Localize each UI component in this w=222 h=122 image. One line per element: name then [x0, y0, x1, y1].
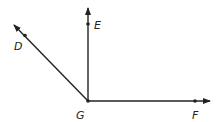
- label-g: G: [76, 109, 85, 122]
- point-d: [23, 34, 27, 38]
- point-f: [193, 99, 197, 103]
- point-e: [86, 22, 90, 26]
- label-f: F: [192, 109, 199, 122]
- ray-diagram: E D G F: [0, 0, 222, 122]
- label-e: E: [94, 19, 101, 32]
- label-d: D: [14, 40, 22, 53]
- vertex-g: [86, 99, 90, 103]
